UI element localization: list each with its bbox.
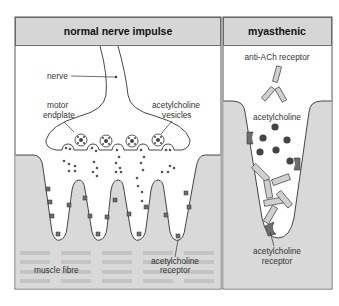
label-receptor-1-right: acetylcholine [253, 246, 301, 256]
label-acetylcholine-vesicles-2: vesicles [162, 110, 192, 120]
label-motor: motor [47, 100, 68, 110]
title-myasthenic: myasthenic [248, 25, 306, 37]
diagram: normal nerve impulse [0, 0, 339, 306]
label-endplate: endplate [43, 110, 75, 120]
label-muscle-fibre: muscle fibre [34, 265, 79, 275]
label-anti-ach-receptor: anti-ACh receptor [244, 52, 309, 62]
label-receptor-2: receptor [160, 265, 191, 275]
label-receptor-2-right: receptor [262, 256, 293, 266]
panel-normal-nerve-impulse: normal nerve impulse [15, 17, 221, 289]
label-nerve: nerve [47, 71, 68, 81]
panel-myasthenic: myasthenic anti-ACh receptor acetylcholi… [223, 17, 332, 289]
label-acetylcholine-vesicles-1: acetylcholine [152, 100, 200, 110]
title-normal-nerve-impulse: normal nerve impulse [64, 25, 173, 37]
label-acetylcholine: acetylcholine [253, 112, 301, 122]
